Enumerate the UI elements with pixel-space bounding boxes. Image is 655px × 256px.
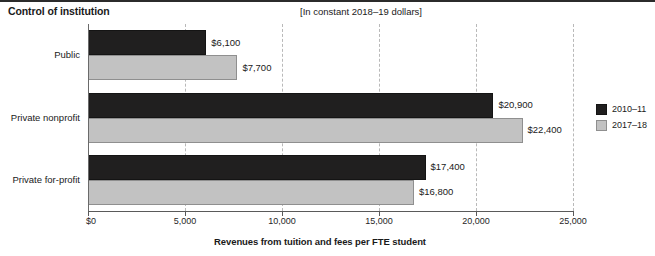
- legend-swatch-icon: [596, 104, 607, 115]
- bar-private-nonprofit-2010-11[interactable]: [88, 93, 493, 118]
- bar-public-2017-18[interactable]: [88, 55, 237, 80]
- category-label-private-nonprofit: Private nonprofit: [11, 112, 80, 123]
- bar-value-label: $20,900: [498, 99, 532, 110]
- category-axis-labels: PublicPrivate nonprofitPrivate for-profi…: [0, 24, 84, 211]
- category-label-public: Public: [54, 49, 80, 60]
- legend-label: 2017–18: [612, 120, 647, 130]
- bar-private-for-profit-2017-18[interactable]: [88, 180, 414, 205]
- x-axis-title: Revenues from tuition and fees per FTE s…: [0, 236, 640, 247]
- bar-value-label: $16,800: [419, 186, 453, 197]
- x-axis-tick-label: 10,000: [268, 216, 296, 226]
- x-axis-line: [88, 211, 574, 212]
- x-axis-tick-label: 25,000: [559, 216, 587, 226]
- bar-value-label: $6,100: [211, 37, 240, 48]
- legend-swatch-icon: [596, 120, 607, 131]
- x-axis-tick-label: 20,000: [462, 216, 490, 226]
- gridline: [573, 24, 574, 211]
- category-label-private-for-profit: Private for-profit: [12, 174, 80, 185]
- top-rule: [0, 0, 655, 2]
- legend-label: 2010–11: [612, 104, 646, 114]
- bar-public-2010-11[interactable]: [88, 30, 206, 55]
- bar-private-nonprofit-2017-18[interactable]: [88, 118, 523, 143]
- plot-area: $6,100$7,700$20,900$22,400$17,400$16,800: [88, 24, 573, 211]
- bar-private-for-profit-2010-11[interactable]: [88, 155, 426, 180]
- legend-item-2017-18[interactable]: 2017–18: [596, 117, 647, 133]
- x-axis-tick-label: 5,000: [174, 216, 197, 226]
- chart-legend: 2010–112017–18: [596, 101, 647, 133]
- chart-subtitle: [In constant 2018–19 dollars]: [300, 6, 422, 17]
- bar-value-label: $17,400: [431, 161, 465, 172]
- x-axis-tick-label: $0: [86, 216, 96, 226]
- bar-value-label: $7,700: [242, 62, 271, 73]
- page-title: Control of institution: [8, 5, 110, 17]
- y-axis-line: [88, 24, 89, 212]
- legend-item-2010-11[interactable]: 2010–11: [596, 101, 647, 117]
- bar-value-label: $22,400: [528, 124, 562, 135]
- x-axis-tick-label: 15,000: [365, 216, 393, 226]
